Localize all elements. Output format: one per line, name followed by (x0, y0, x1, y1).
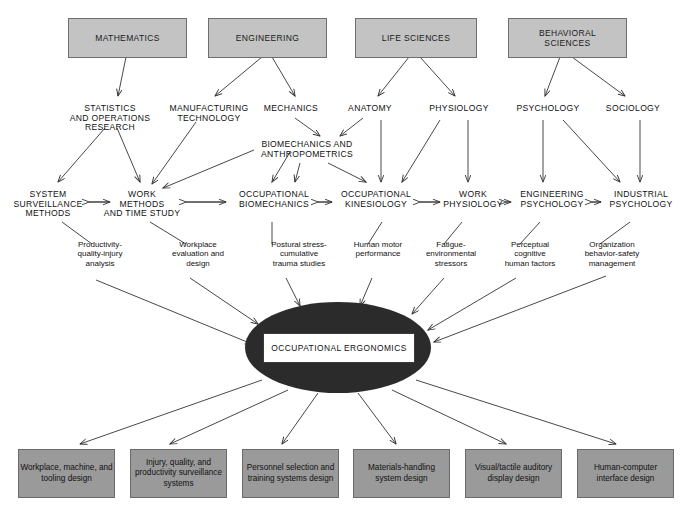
sub-discipline-statistics-operations-research: STATISTICS AND OPERATIONS RESEARCH (62, 104, 158, 133)
core-label-box[interactable]: OCCUPATIONAL ERGONOMICS (263, 333, 415, 363)
sub-discipline-sociology: SOCIOLOGY (600, 104, 666, 114)
topic-organization-behavior-safety-management: Organization behavior-safety management (568, 240, 656, 268)
sub-discipline-psychology: PSYCHOLOGY (512, 104, 584, 114)
output-box-injury-quality-productivity-surveillance[interactable]: Injury, quality, and productivity survei… (130, 449, 227, 498)
output-box-visual-tactile-auditory-display-design[interactable]: Visual/tactile auditory display design (465, 449, 562, 498)
output-box-label: Materials-handling system design (354, 463, 449, 484)
output-box-workplace-machine-tooling-design[interactable]: Workplace, machine, and tooling design (18, 449, 115, 498)
output-box-human-computer-interface-design[interactable]: Human-computer interface design (577, 449, 674, 498)
output-box-label: Visual/tactile auditory display design (466, 463, 561, 484)
source-box-label: LIFE SCIENCES (382, 33, 450, 43)
topic-productivity-quality-injury-analysis: Productivity- quality-injury analysis (60, 240, 140, 268)
source-box-label: MATHEMATICS (95, 33, 159, 43)
core-discipline-work-methods-time-study: WORK METHODS AND TIME STUDY (98, 190, 186, 219)
topic-human-motor-performance: Human motor performance (341, 240, 415, 259)
output-box-label: Workplace, machine, and tooling design (19, 463, 114, 484)
sub-discipline-biomechanics-anthropometrics: BIOMECHANICS AND ANTHROPOMETRICS (247, 140, 367, 159)
core-discipline-occupational-kinesiology: OCCUPATIONAL KINESIOLOGY (334, 190, 418, 209)
diagram-canvas: MATHEMATICS ENGINEERING LIFE SCIENCES BE… (0, 0, 684, 506)
core-label-text: OCCUPATIONAL ERGONOMICS (271, 343, 406, 353)
topic-postural-stress-cumulative-trauma: Postural stress- cumulative trauma studi… (256, 240, 342, 268)
output-box-label: Human-computer interface design (578, 463, 673, 484)
core-discipline-engineering-psychology: ENGINEERING PSYCHOLOGY (512, 190, 592, 209)
sub-discipline-mechanics: MECHANICS (258, 104, 324, 114)
core-discipline-occupational-biomechanics: OCCUPATIONAL BIOMECHANICS (230, 190, 318, 209)
core-discipline-system-surveillance-methods: SYSTEM SURVEILLANCE METHODS (8, 190, 88, 219)
source-box-life-sciences[interactable]: LIFE SCIENCES (355, 18, 477, 58)
topic-workplace-evaluation-design: Workplace evaluation and design (157, 240, 239, 268)
output-box-label: Injury, quality, and productivity survei… (131, 458, 226, 490)
output-box-label: Personnel selection and training systems… (243, 463, 338, 484)
core-discipline-work-physiology: WORK PHYSIOLOGY (441, 190, 505, 209)
core-discipline-industrial-psychology: INDUSTRIAL PSYCHOLOGY (602, 190, 680, 209)
source-box-behavioral-sciences[interactable]: BEHAVIORAL SCIENCES (508, 18, 627, 58)
topic-perceptual-cognitive-human-factors: Perceptual cognitive human factors (489, 240, 571, 268)
source-box-mathematics[interactable]: MATHEMATICS (68, 18, 187, 58)
sub-discipline-anatomy: ANATOMY (340, 104, 400, 114)
topic-fatigue-environmental-stressors: Fatigue- environmental stressors (412, 240, 490, 268)
source-box-label: BEHAVIORAL SCIENCES (539, 28, 596, 48)
source-box-engineering[interactable]: ENGINEERING (208, 18, 327, 58)
output-box-personnel-selection-training[interactable]: Personnel selection and training systems… (242, 449, 339, 498)
source-box-label: ENGINEERING (236, 33, 299, 43)
sub-discipline-manufacturing-technology: MANUFACTURING TECHNOLOGY (163, 104, 255, 123)
sub-discipline-physiology: PHYSIOLOGY (424, 104, 494, 114)
output-box-materials-handling-system-design[interactable]: Materials-handling system design (353, 449, 450, 498)
